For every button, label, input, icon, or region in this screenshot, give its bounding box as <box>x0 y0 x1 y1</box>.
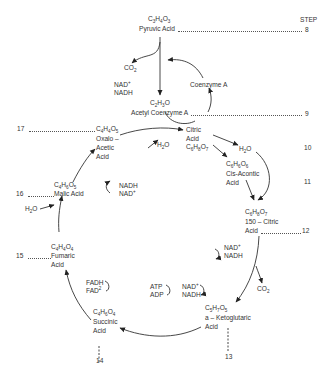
coenzyme-a-label: Coenzyme A <box>190 81 227 89</box>
ketoglutaric-name-2: Acid <box>205 323 218 331</box>
step-12: 12 <box>302 227 309 235</box>
hook-nad-isocitric <box>215 249 219 259</box>
hook-atp-adp <box>166 285 170 295</box>
fumaric-name-2: Acid <box>51 261 64 269</box>
h2o-aconitic: H2O <box>239 145 251 153</box>
step-15: 15 <box>16 252 23 260</box>
fumaric-name-1: Fumaric <box>51 252 75 260</box>
co2-top: CO2 <box>124 64 136 72</box>
succinic-name-2: Acid <box>93 327 106 335</box>
step-17: 17 <box>17 125 24 133</box>
cisaconitic-name-1: Cis-Acontic <box>226 170 259 178</box>
arrow-co2-release <box>132 42 160 63</box>
arrow-ketoglutaric-to-succinic <box>120 327 201 336</box>
oxaloacetic-formula: C4H4O5 <box>96 125 118 133</box>
arrow-citric-to-cisaconitic <box>213 145 227 157</box>
malic-name: Malic Acid <box>54 190 84 198</box>
oxaloacetic-name-3: Acid <box>96 153 109 161</box>
arrows-layer <box>0 0 324 381</box>
step-11: 11 <box>304 178 311 186</box>
acetyl-coa-formula: C2H3O <box>150 99 170 107</box>
hook-nadh-malic <box>106 181 110 193</box>
co2-isocitric: CO2 <box>257 285 269 293</box>
step-10: 10 <box>304 144 311 152</box>
ketoglutaric-formula: C5H7O5 <box>205 304 227 312</box>
arrow-oxaloacetic-to-citric <box>120 128 183 135</box>
succinic-formula: C4H6O4 <box>93 308 115 316</box>
step-8: 8 <box>305 26 309 34</box>
step-leader-9 <box>191 115 302 116</box>
isocitric-name-2: Acid <box>245 227 258 235</box>
citric-name-1: Citric <box>186 126 201 134</box>
fumaric-formula: C4H4O4 <box>51 243 73 251</box>
nad-ketoglutaric: NAD+NADH <box>182 283 201 299</box>
step-16: 16 <box>16 190 23 198</box>
cisaconitic-name-2: Acid <box>226 179 239 187</box>
arrow-citric-to-h2o <box>213 135 238 145</box>
succinic-name-1: Succinic <box>93 318 118 326</box>
arrow-to-coenzyme-a <box>208 88 211 112</box>
fad-cofactor: FADHFAD2 <box>86 279 104 295</box>
step-13: 13 <box>225 353 232 361</box>
pyruvic-name: Pyruvic Acid <box>139 25 175 33</box>
arrow-h2o-to-malic <box>40 205 54 209</box>
step-leader-8 <box>178 31 302 32</box>
nadh-malic: NADHNAD+ <box>119 182 138 198</box>
nad-top: NAD+NADH <box>114 81 133 97</box>
arrow-malic-to-oxaloacetic <box>73 149 95 182</box>
step-14: 14 <box>96 357 103 365</box>
atp-adp: ATPADP <box>150 283 164 299</box>
arrow-succinic-to-fumaric <box>66 270 91 320</box>
step-leader-16 <box>28 196 54 197</box>
acetyl-coa-name: Acetyl Coenzyme A <box>131 109 188 117</box>
hook-fad <box>105 281 109 291</box>
ketoglutaric-name-1: a – Ketoglutaric <box>205 314 251 322</box>
arrow-coenzyme-a-return <box>168 60 203 78</box>
isocitric-formula: C6H8O7 <box>245 208 267 216</box>
step-leader-15 <box>28 258 51 259</box>
citric-name-2: Acid <box>186 135 199 143</box>
h2o-fumaric: H2O <box>25 205 37 213</box>
step-header: STEP <box>300 16 317 24</box>
h2o-citric: H2O <box>157 141 169 149</box>
arrow-fumaric-to-malic <box>59 196 62 232</box>
nad-isocitric: NAD+NADH <box>224 244 243 260</box>
isocitric-name-1: 150 – Citric <box>245 218 278 226</box>
citric-formula: C6H8O7 <box>186 143 208 151</box>
cisaconitic-formula: C6H6O6 <box>226 160 248 168</box>
malic-formula: C4H6O5 <box>54 181 76 189</box>
arrow-co2-from-isocitric <box>256 266 262 283</box>
oxaloacetic-name-1: Oxalo – <box>96 135 119 143</box>
step-9: 9 <box>305 110 309 118</box>
oxaloacetic-name-2: Acetic <box>96 144 114 152</box>
step-leader-12 <box>261 233 301 234</box>
step-leader-17 <box>29 131 95 132</box>
pyruvic-formula: C3H4O3 <box>148 15 170 23</box>
krebs-cycle-diagram: STEP C3H4O3 Pyruvic Acid 8 CO2 NAD+NADH … <box>0 0 324 381</box>
arrow-cisaconitic-to-isocitric <box>246 180 254 200</box>
